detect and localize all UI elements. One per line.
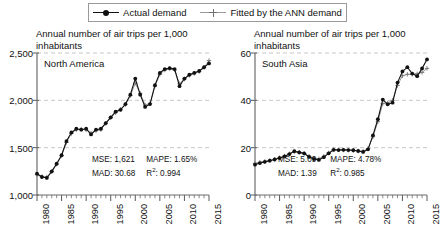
actual-demand-point-marker xyxy=(173,67,177,71)
legend-label-fitted: Fitted by the ANN demand xyxy=(230,8,341,18)
actual-demand-point-marker xyxy=(148,102,152,106)
actual-demand-marker-icon xyxy=(93,8,119,18)
mse-label-left: MSE: xyxy=(92,155,112,164)
mape-label-right: MAPE: xyxy=(330,155,355,164)
actual-demand-point-marker xyxy=(371,133,375,137)
actual-demand-point-marker xyxy=(405,65,409,69)
actual-demand-point-marker xyxy=(391,101,395,105)
actual-demand-point-marker xyxy=(45,176,49,180)
mse-value-left: 1,621 xyxy=(114,155,135,164)
actual-demand-point-marker xyxy=(386,102,390,106)
actual-demand-point-marker xyxy=(337,148,341,152)
actual-demand-point-marker xyxy=(163,67,167,71)
actual-demand-point-marker xyxy=(119,108,123,112)
actual-demand-point-marker xyxy=(65,139,69,143)
chart-panel-north-america: Annual number of air trips per 1,000 inh… xyxy=(0,26,217,237)
mape-value-left: 1.65% xyxy=(174,155,197,164)
actual-demand-point-marker xyxy=(114,110,118,114)
actual-demand-point-marker xyxy=(342,148,346,152)
mad-label-left: MAD: xyxy=(92,169,112,178)
actual-demand-point-marker xyxy=(79,128,83,132)
actual-demand-point-marker xyxy=(74,127,78,131)
actual-demand-point-marker xyxy=(128,93,132,97)
plot-svg-south-asia xyxy=(255,53,444,240)
actual-demand-point-marker xyxy=(192,71,196,75)
actual-demand-point-marker xyxy=(410,72,414,76)
y-axis-title-left: Annual number of air trips per 1,000 inh… xyxy=(36,28,211,51)
actual-demand-point-marker xyxy=(376,117,380,121)
actual-demand-point-marker xyxy=(356,149,360,153)
statistics-block-right: MSE: 5.09 MAPE: 4.78% MAD: 1.39 R2: 0.98… xyxy=(278,154,381,179)
actual-demand-point-marker xyxy=(197,69,201,73)
actual-demand-point-marker xyxy=(346,148,350,152)
actual-demand-point-marker xyxy=(187,73,191,77)
y-tick-label-south-asia: 60 xyxy=(240,48,251,59)
actual-demand-point-marker xyxy=(55,162,59,166)
chart-legend: Actual demand Fitted by the ANN demand xyxy=(88,3,347,22)
actual-demand-point-marker xyxy=(109,115,113,119)
y-tick-label-north-america: 1,500 xyxy=(9,142,33,153)
actual-demand-point-marker xyxy=(84,127,88,131)
actual-demand-point-marker xyxy=(415,74,419,78)
actual-demand-point-marker xyxy=(420,66,424,70)
actual-demand-point-marker xyxy=(183,77,187,81)
actual-demand-point-marker xyxy=(143,105,147,109)
r2-value-left: 0.994 xyxy=(160,169,181,178)
y-tick-label-south-asia: 0 xyxy=(246,190,251,201)
actual-demand-point-marker xyxy=(153,83,157,87)
actual-demand-point-marker xyxy=(158,71,162,75)
fitted-demand-line-south-asia xyxy=(255,68,427,163)
mad-value-left: 30.68 xyxy=(115,169,136,178)
actual-demand-point-marker xyxy=(332,148,336,152)
actual-demand-point-marker xyxy=(263,160,267,164)
legend-entry-actual: Actual demand xyxy=(93,8,186,18)
mse-label-right: MSE: xyxy=(278,155,298,164)
statistics-block-left: MSE: 1,621 MAPE: 1.65% MAD: 30.68 R2: 0.… xyxy=(92,154,197,179)
y-tick-label-north-america: 2,000 xyxy=(9,95,33,106)
actual-demand-point-marker xyxy=(70,131,74,135)
y-axis-title-right: Annual number of air trips per 1,000 inh… xyxy=(254,28,429,51)
actual-demand-point-marker xyxy=(202,65,206,69)
actual-demand-point-marker xyxy=(133,77,137,81)
actual-demand-point-marker xyxy=(89,133,93,137)
actual-demand-point-marker xyxy=(138,93,142,97)
actual-demand-point-marker xyxy=(292,149,296,153)
r2-value-right: 0.985 xyxy=(344,169,365,178)
mad-value-right: 1.39 xyxy=(301,169,317,178)
actual-demand-point-marker xyxy=(104,121,108,125)
actual-demand-point-marker xyxy=(253,163,257,167)
actual-demand-point-marker xyxy=(40,175,44,179)
actual-demand-point-marker xyxy=(124,102,128,106)
y-tick-label-north-america: 2,500 xyxy=(9,48,33,59)
actual-demand-point-marker xyxy=(273,158,277,162)
legend-label-actual: Actual demand xyxy=(123,8,186,18)
actual-demand-point-marker xyxy=(207,62,211,66)
actual-demand-point-marker xyxy=(258,161,262,165)
y-tick-label-south-asia: 20 xyxy=(240,142,251,153)
actual-demand-point-marker xyxy=(99,127,103,131)
r2-label-left: R2: xyxy=(146,169,158,178)
actual-demand-point-marker xyxy=(381,98,385,102)
plot-svg-north-america xyxy=(37,53,239,240)
actual-demand-point-marker xyxy=(396,81,400,85)
actual-demand-point-marker xyxy=(351,148,355,152)
r2-label-right: R2: xyxy=(330,169,342,178)
fitted-demand-plus-marker xyxy=(405,72,409,76)
actual-demand-point-marker xyxy=(366,147,370,151)
actual-demand-line-south-asia xyxy=(255,59,427,164)
actual-demand-point-marker xyxy=(35,172,39,176)
mad-label-right: MAD: xyxy=(278,169,298,178)
actual-demand-point-marker xyxy=(401,70,405,74)
y-tick-label-south-asia: 40 xyxy=(240,95,251,106)
y-tick-label-north-america: 1,000 xyxy=(9,190,33,201)
mape-value-right: 4.78% xyxy=(358,155,381,164)
actual-demand-point-marker xyxy=(178,84,182,88)
mse-value-right: 5.09 xyxy=(300,155,316,164)
actual-demand-point-marker xyxy=(60,153,64,157)
legend-entry-fitted: Fitted by the ANN demand xyxy=(200,8,341,18)
actual-demand-point-marker xyxy=(425,57,429,61)
actual-demand-point-marker xyxy=(168,66,172,70)
chart-panel-south-asia: Annual number of air trips per 1,000 inh… xyxy=(218,26,435,237)
fitted-demand-marker-icon xyxy=(200,8,226,18)
